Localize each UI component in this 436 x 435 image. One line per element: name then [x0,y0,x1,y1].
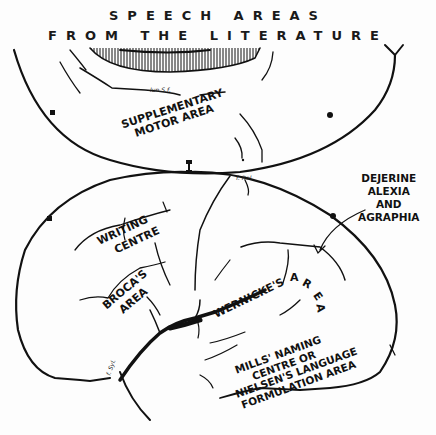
label-f-rol: f. Rol. [236,174,253,181]
label-wernickes-a: A [290,272,299,284]
label-dejerine: DEJERINE ALEXIA AND AGRAPHIA [358,172,419,225]
dejerine-line-1: DEJERINE [358,172,419,185]
dejerine-line-4: AGRAPHIA [358,211,419,224]
lateral-view [16,172,397,420]
speech-areas-diagram: SPEECH AREAS FROM THE LITERATURE [0,0,436,435]
label-wernickes-a2: A [314,303,327,313]
label-sulcus: lun.S.f. [150,86,171,93]
dejerine-line-3: AND [358,198,419,211]
dejerine-line-2: ALEXIA [358,185,419,198]
label-f-syl: f. Syl. [104,358,117,377]
